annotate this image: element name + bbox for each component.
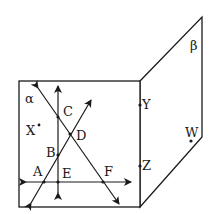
plane-beta-label: β: [190, 38, 198, 53]
point-Z-label: Z: [142, 158, 151, 173]
diagram-canvas: α β A B C D E F X Y Z W: [0, 0, 218, 214]
point-D-dot: [68, 132, 71, 135]
point-D-label: D: [76, 128, 86, 143]
point-A-dot: [42, 180, 45, 183]
point-B-dot: [56, 153, 59, 156]
point-F-label: F: [104, 164, 113, 179]
point-C-dot: [56, 115, 59, 118]
point-E-label: E: [62, 166, 72, 181]
point-C-label: C: [63, 104, 73, 119]
point-A-label: A: [32, 164, 43, 179]
point-X-label: X: [26, 123, 36, 138]
point-X-dot: [38, 124, 41, 127]
planes-diagram: α β A B C D E F X Y Z W: [0, 0, 218, 214]
point-B-label: B: [46, 145, 56, 160]
plane-alpha-label: α: [25, 91, 34, 106]
point-F-dot: [101, 180, 104, 183]
plane-alpha: [19, 81, 140, 207]
point-W-label: W: [185, 125, 199, 140]
point-Y-label: Y: [141, 97, 151, 112]
point-E-dot: [56, 180, 59, 183]
